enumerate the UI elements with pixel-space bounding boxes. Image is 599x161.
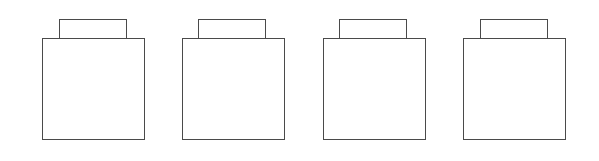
container-tab xyxy=(198,19,266,38)
container-tab xyxy=(339,19,407,38)
container-body xyxy=(323,38,426,140)
container-body xyxy=(182,38,285,140)
container-tab xyxy=(59,19,127,38)
container-body xyxy=(42,38,145,140)
container-tab xyxy=(480,19,548,38)
container-body xyxy=(463,38,566,140)
